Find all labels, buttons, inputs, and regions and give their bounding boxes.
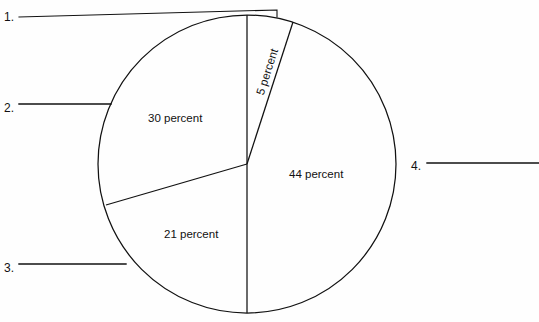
slice-label-fortyfour: 44 percent — [289, 168, 344, 180]
callout-number-2: 2. — [4, 101, 14, 115]
callout-number-1: 1. — [4, 10, 14, 24]
slice-label-thirty: 30 percent — [148, 112, 203, 124]
callout-number-4: 4. — [411, 159, 421, 173]
callout-leader-1 — [19, 10, 277, 17]
slice-label-twentyone: 21 percent — [164, 228, 219, 240]
pie-divider-twentyone-thirty — [106, 164, 247, 205]
pie-chart-figure: 30 percent 21 percent 44 percent 5 perce… — [0, 0, 539, 322]
callout-number-3: 3. — [4, 261, 14, 275]
pie-chart-svg: 30 percent 21 percent 44 percent 5 perce… — [0, 0, 539, 322]
